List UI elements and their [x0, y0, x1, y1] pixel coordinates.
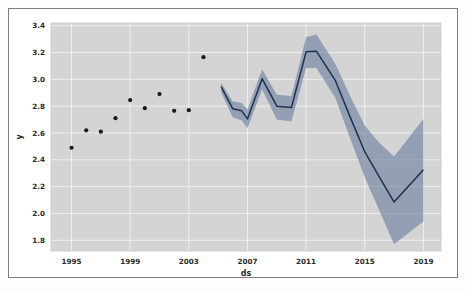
x-tick-label: 2003 [179, 257, 199, 266]
x-tick-label: 1999 [120, 257, 140, 266]
observed-point [128, 98, 132, 102]
x-axis-ticks: 1995199920032007201120152019 [62, 257, 434, 266]
observed-point [143, 106, 147, 110]
x-tick-label: 2015 [355, 257, 375, 266]
x-tick-label: 2019 [413, 257, 433, 266]
forecast-chart: 1.82.02.22.42.62.83.03.23.41995199920032… [9, 9, 457, 277]
y-tick-label: 3.0 [32, 75, 45, 84]
y-tick-label: 2.6 [32, 129, 45, 138]
x-axis-title: ds [241, 269, 252, 277]
observed-point [99, 130, 103, 134]
observed-point [69, 146, 73, 150]
y-tick-label: 3.2 [32, 48, 45, 57]
observed-point [84, 128, 88, 132]
y-tick-label: 2.8 [32, 102, 45, 111]
y-tick-label: 2.4 [32, 155, 45, 164]
figure-root: 1.82.02.22.42.62.83.03.23.41995199920032… [0, 0, 471, 293]
y-tick-label: 2.2 [32, 182, 45, 191]
y-tick-label: 1.8 [32, 236, 45, 245]
figure-frame: 1.82.02.22.42.62.83.03.23.41995199920032… [8, 8, 458, 278]
y-axis-title: y [15, 134, 24, 140]
observed-point [172, 109, 176, 113]
observed-point [187, 108, 191, 112]
x-tick-label: 1995 [62, 257, 82, 266]
observed-point [201, 55, 205, 59]
observed-point [113, 116, 117, 120]
y-tick-label: 3.4 [32, 21, 45, 30]
x-tick-label: 2007 [237, 257, 257, 266]
observed-point [157, 92, 161, 96]
y-axis-ticks: 1.82.02.22.42.62.83.03.23.4 [32, 21, 45, 245]
x-tick-label: 2011 [296, 257, 316, 266]
y-tick-label: 2.0 [32, 209, 45, 218]
